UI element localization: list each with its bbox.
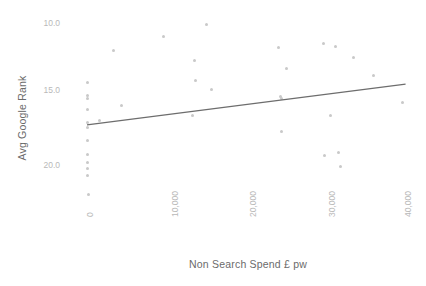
plot-area: 10.0 15.0 20.0 0 10,000 20,000 30,000 40… [0,0,426,286]
data-point [86,139,89,142]
data-point [86,81,89,84]
data-point [86,161,89,164]
x-tick-label-0: 0 [85,212,95,217]
data-point [86,174,89,177]
data-point [193,59,196,62]
data-point [86,97,89,100]
data-point [86,167,89,170]
data-point [112,49,115,52]
trendline-layer [0,0,426,286]
data-point [337,151,340,154]
data-point [205,23,208,26]
x-tick-label-3: 30,000 [327,191,337,217]
data-point [372,74,375,77]
scatter-chart-figure: 10.0 15.0 20.0 0 10,000 20,000 30,000 40… [0,0,426,286]
data-point [210,88,213,91]
data-point [86,153,89,156]
data-point [86,121,89,124]
data-point [334,45,337,48]
x-axis-title: Non Search Spend £ pw [85,258,411,270]
data-point [401,101,404,104]
x-tick-label-1: 10,000 [170,191,180,217]
trendline [87,84,406,125]
data-point [191,114,194,117]
data-point [86,126,89,129]
data-point [352,56,355,59]
data-point [323,154,326,157]
data-point [280,130,283,133]
y-axis-title: Avg Google Rank [16,58,28,178]
x-tick-label-4: 40,000 [403,191,413,217]
data-point [285,67,288,70]
data-point [280,97,283,100]
data-point [87,193,90,196]
data-point [194,79,197,82]
data-point [162,35,165,38]
y-tick-label-0: 10.0 [20,18,60,28]
data-point [277,46,280,49]
data-point [322,42,325,45]
x-tick-label-2: 20,000 [248,191,258,217]
data-point [329,114,332,117]
data-point [339,165,342,168]
data-point [86,108,89,111]
data-point [98,119,101,122]
data-point [120,104,123,107]
